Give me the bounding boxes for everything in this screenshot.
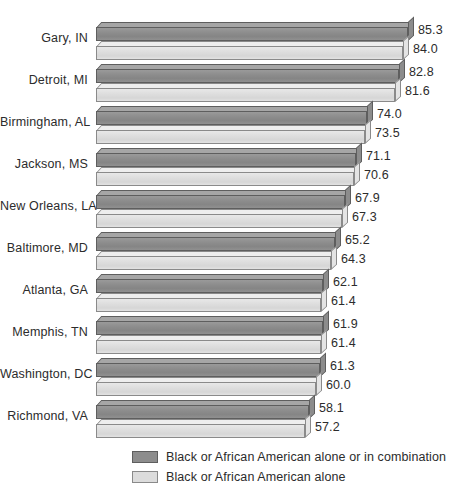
bar-front-face [96, 298, 321, 312]
bar-group: Detroit, MI82.881.6 [0, 63, 466, 105]
bar-front-face [96, 363, 320, 377]
bar-front-face [96, 111, 367, 125]
bar-front-face [96, 237, 335, 251]
bar [96, 419, 305, 438]
bar [96, 358, 320, 377]
category-label: Washington, DC [0, 367, 88, 381]
legend-item-alone: Black or African American alone [132, 467, 462, 486]
bar-value-label: 61.4 [331, 336, 356, 350]
bar [96, 209, 342, 228]
bar-group: Atlanta, GA62.161.4 [0, 273, 466, 315]
category-label: Atlanta, GA [0, 283, 88, 297]
bar-group: New Orleans, LA67.967.3 [0, 189, 466, 231]
bar-group: Washington, DC61.360.0 [0, 357, 466, 399]
bar-group: Memphis, TN61.961.4 [0, 315, 466, 357]
bar-front-face [96, 321, 323, 335]
category-label: Detroit, MI [0, 73, 88, 87]
bar-value-label: 61.3 [330, 359, 355, 373]
bar-front-face [96, 195, 345, 209]
legend-item-alone-or-combination: Black or African American alone or in co… [132, 447, 462, 466]
legend-swatch-icon-dark [132, 451, 158, 463]
category-label: Birmingham, AL [0, 115, 88, 129]
bar-end-cap [403, 36, 409, 60]
bar-front-face [96, 405, 309, 419]
category-label: Memphis, TN [0, 325, 88, 339]
legend-label: Black or African American alone or in co… [166, 450, 446, 464]
bar-end-cap [305, 414, 311, 438]
bar-front-face [96, 214, 342, 228]
category-label: Richmond, VA [0, 409, 88, 423]
bar-end-cap [365, 120, 371, 144]
bar-end-cap [321, 330, 327, 354]
bar-front-face [96, 130, 365, 144]
bar [96, 125, 365, 144]
bar-end-cap [395, 78, 401, 102]
bar-value-label: 61.9 [333, 317, 358, 331]
bar-value-label: 81.6 [405, 84, 430, 98]
bar-end-cap [321, 288, 327, 312]
bar-value-label: 70.6 [364, 168, 389, 182]
bar [96, 232, 335, 251]
bar-value-label: 60.0 [326, 378, 351, 392]
bar-value-label: 74.0 [377, 107, 402, 121]
category-label: Jackson, MS [0, 157, 88, 171]
category-label: Baltimore, MD [0, 241, 88, 255]
bar-end-cap [331, 246, 337, 270]
bar [96, 400, 309, 419]
bar [96, 64, 399, 83]
bar-front-face [96, 88, 395, 102]
bar-value-label: 65.2 [345, 233, 370, 247]
bar [96, 22, 408, 41]
bar-value-label: 64.3 [341, 252, 366, 266]
category-label: New Orleans, LA [0, 199, 88, 213]
bar-front-face [96, 256, 331, 270]
bar [96, 41, 403, 60]
bar-group: Birmingham, AL74.073.5 [0, 105, 466, 147]
bar-value-label: 85.3 [418, 23, 443, 37]
bar-front-face [96, 382, 316, 396]
category-label: Gary, IN [0, 31, 88, 45]
bar-value-label: 58.1 [319, 401, 344, 415]
bar-value-label: 62.1 [333, 275, 358, 289]
bar [96, 316, 323, 335]
bar [96, 190, 345, 209]
chart-legend: Black or African American alone or in co… [132, 447, 462, 487]
plot-area: Gary, IN85.384.0Detroit, MI82.881.6Birmi… [0, 0, 466, 440]
bar-front-face [96, 279, 323, 293]
bar-group: Jackson, MS71.170.6 [0, 147, 466, 189]
bar-front-face [96, 46, 403, 60]
bar-value-label: 82.8 [409, 65, 434, 79]
bar [96, 377, 316, 396]
bar [96, 335, 321, 354]
bar-group: Gary, IN85.384.0 [0, 21, 466, 63]
bar-group: Richmond, VA58.157.2 [0, 399, 466, 441]
bar-value-label: 84.0 [413, 42, 438, 56]
bar [96, 293, 321, 312]
bar-front-face [96, 172, 354, 186]
bar-group: Baltimore, MD65.264.3 [0, 231, 466, 273]
bar-value-label: 67.3 [352, 210, 377, 224]
legend-swatch-icon-light [132, 471, 158, 483]
bar-front-face [96, 69, 399, 83]
bar-end-cap [354, 162, 360, 186]
bar-value-label: 71.1 [366, 149, 391, 163]
bar [96, 251, 331, 270]
bar-front-face [96, 27, 408, 41]
bar-value-label: 67.9 [355, 191, 380, 205]
bar-end-cap [316, 372, 322, 396]
bar [96, 106, 367, 125]
bar-front-face [96, 153, 356, 167]
bar [96, 274, 323, 293]
bar [96, 167, 354, 186]
bar-value-label: 61.4 [331, 294, 356, 308]
bar [96, 148, 356, 167]
legend-label: Black or African American alone [166, 470, 346, 484]
bar-end-cap [342, 204, 348, 228]
bar-chart: Gary, IN85.384.0Detroit, MI82.881.6Birmi… [0, 0, 466, 491]
bar-front-face [96, 424, 305, 438]
bar [96, 83, 395, 102]
bar-front-face [96, 340, 321, 354]
bar-value-label: 73.5 [375, 126, 400, 140]
bar-value-label: 57.2 [315, 420, 340, 434]
